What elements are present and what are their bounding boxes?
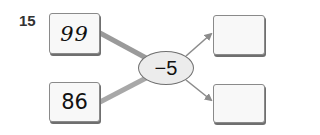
answer-box-2[interactable]	[213, 84, 265, 123]
arrow-output-2	[186, 80, 211, 100]
connector-input-1	[100, 33, 148, 59]
operation-label: −5	[155, 57, 178, 80]
input-value-2: 86	[61, 90, 88, 114]
operation-ellipse: −5	[138, 51, 194, 85]
arrow-output-1	[186, 34, 211, 56]
input-box-2: 86	[49, 82, 100, 122]
connector-input-2	[100, 77, 148, 102]
input-value-1: 99	[60, 22, 89, 46]
answer-box-1[interactable]	[213, 15, 265, 55]
input-box-1: 99	[49, 13, 100, 54]
